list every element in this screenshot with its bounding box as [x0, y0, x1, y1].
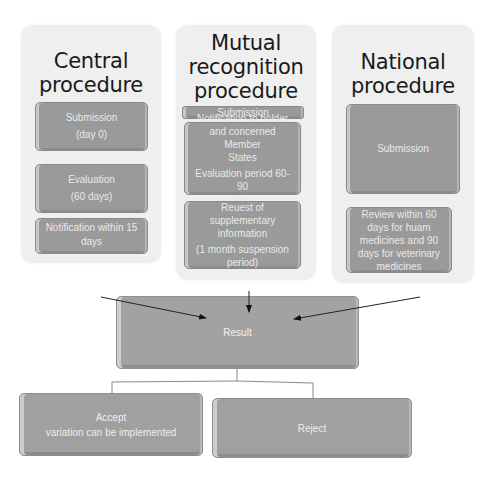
title-line: Central [54, 49, 128, 73]
step-text: medicines [376, 260, 421, 273]
title-line: recognition [189, 55, 304, 79]
national-submission-step: Submission [346, 104, 460, 194]
step-text: Submission [377, 142, 429, 156]
national-procedure-title: National procedure [332, 50, 474, 98]
central-evaluation-step: Evaluation (60 days) [35, 164, 148, 213]
reject-outcome-box: Reject [212, 398, 412, 458]
connector-to-accept [112, 369, 237, 393]
title-line: procedure [351, 74, 455, 98]
accept-outcome-box: Accept variation can be implemented [19, 393, 203, 456]
step-text: States [228, 151, 256, 164]
step-text: Reuest of [221, 201, 264, 214]
step-text: (60 days) [71, 190, 113, 204]
step-text: (1 month suspension [196, 243, 289, 256]
step-text: days for veterinary [358, 247, 440, 260]
step-text: supplementary [210, 214, 276, 227]
connector-to-reject [237, 381, 313, 398]
mutual-supplementary-info-step: Reuest of supplementary information (1 m… [184, 201, 301, 269]
mutual-recognition-title: Mutual recognition procedure [176, 31, 316, 103]
step-text: days for huam [367, 221, 430, 234]
step-text: and concerned Member [191, 125, 294, 151]
step-text: (day 0) [76, 128, 107, 142]
result-label: Result [223, 327, 251, 338]
step-text: Evaluation [68, 173, 115, 187]
outcome-text: variation can be implemented [46, 425, 177, 440]
outcome-text: Accept [96, 410, 127, 425]
central-procedure-column: Central procedure Submission (day 0) Eva… [21, 25, 161, 263]
title-line: Mutual [211, 31, 281, 55]
result-box: Result [116, 296, 359, 369]
mutual-notification-step: Notification to holder and concerned Mem… [184, 122, 301, 195]
step-text: Review within 60 [361, 208, 436, 221]
title-line: procedure [194, 79, 298, 103]
national-procedure-column: National procedure Submission Review wit… [332, 25, 474, 283]
step-text: days [81, 235, 102, 249]
central-procedure-title: Central procedure [21, 49, 161, 97]
step-text: Evaluation period 60-90 [191, 167, 294, 193]
step-text: Submission [66, 111, 118, 125]
title-line: National [360, 50, 445, 74]
step-text: period) [227, 256, 258, 269]
mutual-recognition-column: Mutual recognition procedure Submission … [176, 25, 316, 280]
title-line: procedure [39, 73, 143, 97]
central-submission-step: Submission (day 0) [35, 102, 148, 151]
step-text: Notification within 15 [46, 221, 138, 235]
step-text: medicines and 90 [360, 234, 438, 247]
central-notification-step: Notification within 15 days [35, 218, 148, 254]
step-text: information [218, 227, 267, 240]
national-review-step: Review within 60 days for huam medicines… [346, 207, 452, 273]
outcome-text: Reject [298, 421, 326, 436]
step-text: Notification to holder [197, 112, 288, 125]
